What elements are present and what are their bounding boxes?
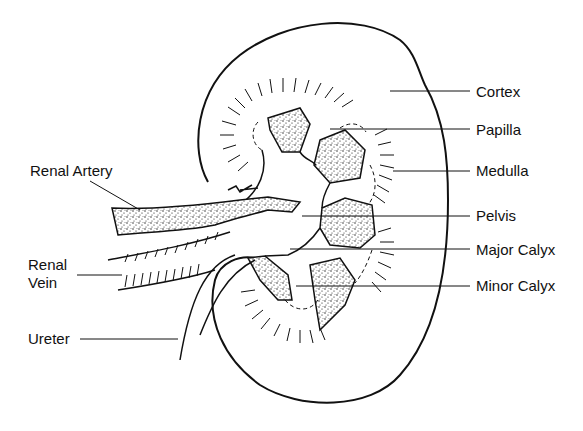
label-ureter: Ureter xyxy=(28,330,70,348)
label-major-calyx: Major Calyx xyxy=(476,241,555,259)
label-pelvis: Pelvis xyxy=(476,207,516,225)
pyramid-mid xyxy=(320,198,375,248)
leader-lines-right xyxy=(290,91,470,286)
label-cortex: Cortex xyxy=(476,83,520,101)
label-minor-calyx: Minor Calyx xyxy=(476,277,555,295)
label-renal-vein-line2: Vein xyxy=(28,274,57,292)
pyramid-upper-2 xyxy=(314,130,365,183)
pyramid-lower-2 xyxy=(310,258,355,330)
renal-artery xyxy=(112,197,300,235)
leader-lines-left xyxy=(77,181,178,339)
label-renal-artery: Renal Artery xyxy=(30,162,113,180)
label-renal-vein-line1: Renal xyxy=(28,256,67,274)
kidney-diagram: Cortex Papilla Medulla Pelvis Major Caly… xyxy=(0,0,583,431)
pyramid-lower-1 xyxy=(248,256,292,300)
label-papilla: Papilla xyxy=(476,121,521,139)
pyramid-upper-1 xyxy=(268,108,310,152)
ureter xyxy=(180,255,255,360)
label-medulla: Medulla xyxy=(476,162,529,180)
